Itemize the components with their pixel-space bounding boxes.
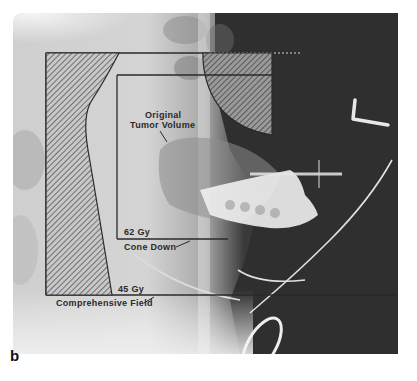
panel-label: b bbox=[10, 347, 19, 364]
cone-down-dose: 62 Gy bbox=[124, 227, 150, 237]
radiotherapy-field-figure: Original Tumor Volume 62 Gy Cone Down 45… bbox=[0, 0, 417, 381]
cone-down-label: Cone Down bbox=[124, 242, 176, 252]
tumor-label-line1: Original bbox=[145, 110, 181, 120]
comprehensive-dose: 45 Gy bbox=[118, 284, 144, 294]
tumor-label-line2: Tumor Volume bbox=[130, 120, 195, 130]
comprehensive-label: Comprehensive Field bbox=[56, 298, 153, 308]
